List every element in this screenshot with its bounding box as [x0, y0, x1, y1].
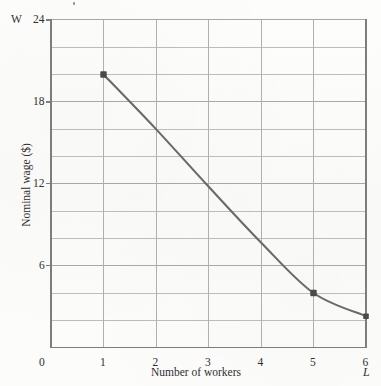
marker-point-b	[310, 290, 316, 296]
x-tick-label-5: 5	[310, 357, 316, 369]
x-axis-title: Number of workers	[111, 366, 281, 378]
marker-point-a	[100, 71, 106, 77]
x-tick-label-1: 1	[100, 357, 106, 369]
plot-area	[0, 0, 381, 386]
x-tick-label-0: 0	[39, 357, 45, 369]
y-axis-ticks	[46, 20, 51, 266]
y-tick-label-18: 18	[33, 96, 45, 108]
x-axis-symbol: L	[363, 366, 370, 378]
y-tick-label-12: 12	[33, 178, 45, 190]
labour-demand-curve	[104, 75, 367, 317]
y-tick-label-6: 6	[39, 260, 45, 272]
y-tick-label-24: 24	[33, 14, 45, 26]
y-axis-title: Nominal wage ($)	[20, 110, 32, 260]
data-point-markers	[100, 71, 369, 319]
wage-labour-demand-figure: W 24 18 12 6 0 1 2 3 4 5 6 Nominal wage …	[0, 0, 381, 386]
y-axis-symbol: W	[11, 14, 22, 26]
marker-point-c	[363, 313, 369, 319]
